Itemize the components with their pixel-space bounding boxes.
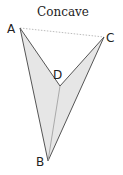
concave-quadrilateral-diagram: Concave A C D B bbox=[0, 0, 123, 175]
diagram-title: Concave bbox=[37, 5, 89, 19]
dashed-diagonal-ac bbox=[20, 28, 104, 37]
quadrilateral-fill bbox=[20, 28, 104, 161]
vertex-label-b: B bbox=[36, 155, 44, 169]
vertex-label-c: C bbox=[106, 31, 114, 45]
vertex-label-d: D bbox=[53, 68, 62, 82]
vertex-label-a: A bbox=[7, 22, 16, 36]
